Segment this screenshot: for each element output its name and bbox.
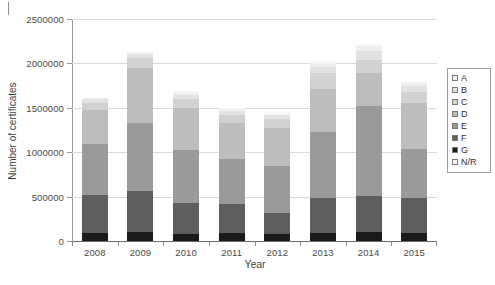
bar-2013 <box>310 61 336 241</box>
bar-segment-E <box>82 144 108 196</box>
bar-segment-C <box>356 60 382 73</box>
y-axis-tick-label: 1000000 <box>26 147 64 158</box>
bar-2008 <box>82 97 108 241</box>
x-axis-title: Year <box>244 258 265 270</box>
bar-segment-C <box>173 99 199 108</box>
bar-segment-B <box>356 51 382 60</box>
bar-segment-F <box>173 203 199 234</box>
legend-swatch-icon <box>452 111 458 117</box>
bar-segment-F <box>219 204 245 233</box>
x-axis-tick <box>391 241 392 246</box>
y-axis-tick-label: 2000000 <box>26 58 64 69</box>
x-axis-tick-label: 2014 <box>358 247 380 258</box>
legend-item-label: E <box>461 122 467 131</box>
legend-swatch-icon <box>452 147 458 153</box>
bar-segment-D <box>264 128 290 165</box>
bar-segment-D <box>310 89 336 133</box>
bar-segment-G <box>310 233 336 241</box>
legend-swatch-icon <box>452 87 458 93</box>
bar-segment-G <box>401 233 427 241</box>
bar-segment-D <box>82 110 108 144</box>
x-axis-tick-label: 2011 <box>221 247 242 258</box>
bar-segment-G <box>219 233 245 241</box>
x-axis-tick-label: 2009 <box>130 247 152 258</box>
legend-swatch-icon <box>452 135 458 141</box>
page-artifact-mark <box>8 2 9 15</box>
legend-item-D[interactable]: D <box>452 108 490 120</box>
y-axis-tick <box>67 63 72 64</box>
bar-segment-E <box>310 132 336 198</box>
bar-segment-D <box>173 108 199 151</box>
bar-segment-F <box>82 195 108 232</box>
bar-segment-E <box>401 149 427 199</box>
legend-swatch-icon <box>452 159 458 165</box>
legend-item-label: N/R <box>461 158 477 167</box>
legend-item-G[interactable]: G <box>452 144 490 156</box>
bar-segment-E <box>219 159 245 204</box>
bar-2015 <box>401 81 427 241</box>
bar-2012 <box>264 112 290 241</box>
bar-segment-F <box>127 191 153 232</box>
y-axis-tick-label: 1500000 <box>26 102 64 113</box>
legend-item-E[interactable]: E <box>452 120 490 132</box>
x-axis-tick <box>209 241 210 246</box>
bar-segment-D <box>219 123 245 159</box>
bar-segment-C <box>401 92 427 104</box>
y-axis-tick-label: 500000 <box>32 191 64 202</box>
x-axis-tick <box>300 241 301 246</box>
legend-swatch-icon <box>452 99 458 105</box>
bar-segment-G <box>127 232 153 241</box>
bar-segment-G <box>264 234 290 241</box>
bar-segment-E <box>264 166 290 213</box>
x-axis-tick-label: 2010 <box>175 247 197 258</box>
legend-item-F[interactable]: F <box>452 132 490 144</box>
bar-segment-G <box>173 234 199 241</box>
y-axis-tick-label: 0 <box>59 236 64 247</box>
y-axis-tick <box>67 19 72 20</box>
legend-item-N-R[interactable]: N/R <box>452 156 490 168</box>
legend-item-A[interactable]: A <box>452 72 490 84</box>
gridline <box>72 19 437 20</box>
y-axis-tick-label: 2500000 <box>26 14 64 25</box>
legend-item-C[interactable]: C <box>452 96 490 108</box>
bar-segment-G <box>82 233 108 241</box>
y-axis-title: Number of certificates <box>7 82 18 179</box>
bar-segment-D <box>356 73 382 106</box>
legend-item-label: D <box>461 110 468 119</box>
x-axis-tick <box>163 241 164 246</box>
bar-segment-D <box>401 103 427 148</box>
legend-swatch-icon <box>452 75 458 81</box>
bar-segment-E <box>356 106 382 196</box>
legend-item-label: B <box>461 86 467 95</box>
y-axis-tick <box>67 197 72 198</box>
x-axis-tick-label: 2012 <box>267 247 289 258</box>
x-axis-tick <box>118 241 119 246</box>
bar-2010 <box>173 91 199 241</box>
x-axis-tick-label: 2013 <box>312 247 334 258</box>
x-axis-tick <box>255 241 256 246</box>
y-axis-line <box>72 19 73 242</box>
x-axis-tick <box>346 241 347 246</box>
bar-segment-F <box>310 198 336 233</box>
bar-2009 <box>127 52 153 241</box>
chart-figure: Number of certificates Year 050000010000… <box>0 0 495 285</box>
x-axis-tick-label: 2015 <box>403 247 425 258</box>
legend-item-label: G <box>461 146 468 155</box>
bar-segment-C <box>310 73 336 89</box>
bar-segment-D <box>127 68 153 123</box>
legend-item-B[interactable]: B <box>452 84 490 96</box>
chart-legend: ABCDEFGN/R <box>447 68 491 173</box>
bar-2011 <box>219 108 245 241</box>
legend-item-label: F <box>461 134 467 143</box>
legend-item-label: A <box>461 74 467 83</box>
bar-2014 <box>356 44 382 241</box>
legend-swatch-icon <box>452 123 458 129</box>
bar-segment-F <box>264 213 290 234</box>
bar-segment-E <box>127 123 153 191</box>
bar-segment-G <box>356 232 382 241</box>
bar-segment-C <box>127 58 153 68</box>
bar-segment-C <box>219 115 245 123</box>
bar-segment-E <box>173 150 199 202</box>
x-axis-tick <box>72 241 73 246</box>
x-axis-tick-label: 2008 <box>84 247 106 258</box>
